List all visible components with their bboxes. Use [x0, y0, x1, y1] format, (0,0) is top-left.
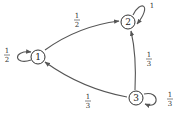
label-num: 1: [75, 12, 79, 20]
label-self-loop-1: 1 2: [4, 47, 10, 64]
label-value: 1: [150, 2, 154, 10]
edge-1-to-2: [45, 21, 119, 50]
self-loop-3: [144, 93, 156, 105]
node-1: 1: [31, 50, 45, 64]
label-edge-3-to-1: 1 3: [85, 93, 91, 110]
label-den: 2: [75, 21, 79, 29]
node-3: 3: [129, 91, 143, 105]
label-num: 1: [5, 47, 9, 55]
label-num: 1: [86, 93, 90, 101]
node-3-label: 3: [133, 93, 139, 103]
label-den: 3: [86, 102, 90, 110]
label-self-loop-2: 1: [150, 2, 154, 10]
node-2-label: 2: [125, 17, 131, 27]
label-edge-1-to-2: 1 2: [74, 12, 80, 29]
node-2: 2: [121, 15, 135, 29]
label-num: 1: [147, 51, 151, 59]
edge-3-to-2: [131, 31, 135, 90]
label-den: 3: [147, 60, 151, 68]
label-den: 3: [168, 100, 172, 108]
label-self-loop-3: 1 3: [167, 91, 173, 108]
label-edge-3-to-2: 1 3: [146, 51, 152, 68]
node-1-label: 1: [35, 52, 41, 62]
label-num: 1: [168, 91, 172, 99]
self-loop-1: [17, 52, 31, 62]
edge-3-to-1: [45, 62, 127, 97]
label-den: 2: [5, 56, 9, 64]
markov-chain-diagram: 1 2 3 1 2 1 2 1 1 3 1 3 1 3: [0, 0, 175, 114]
